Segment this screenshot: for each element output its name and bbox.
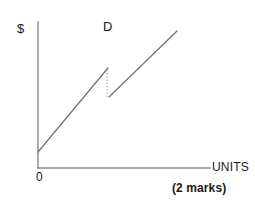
x-axis-label: UNITS — [212, 161, 249, 173]
demand-segment-lower-line — [38, 68, 108, 152]
origin-label: 0 — [36, 171, 43, 183]
chart-figure: $ D 0 UNITS (2 marks) — [0, 0, 255, 200]
y-axis-label: $ — [17, 22, 24, 35]
demand-curve-label: D — [103, 20, 112, 33]
demand-segment-upper-line — [109, 31, 177, 97]
marks-allocation-label: (2 marks) — [172, 182, 226, 194]
